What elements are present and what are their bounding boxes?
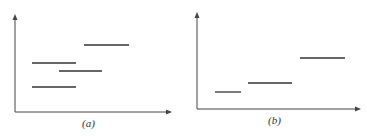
x-axis-arrow-icon	[166, 110, 172, 115]
panel-a-label: (a)	[82, 117, 95, 129]
x-axis-arrow-icon	[355, 107, 361, 112]
y-axis-arrow-icon	[13, 14, 18, 20]
panel-b-label: (b)	[268, 114, 281, 126]
diagram-canvas	[0, 0, 367, 136]
y-axis-arrow-icon	[195, 12, 200, 18]
